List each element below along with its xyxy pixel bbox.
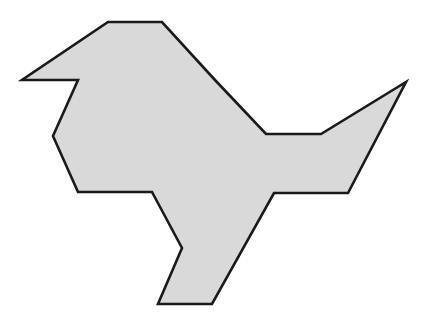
bird-diagram [0,0,426,322]
bird-silhouette-shape [22,22,406,304]
figure-canvas [0,0,426,322]
